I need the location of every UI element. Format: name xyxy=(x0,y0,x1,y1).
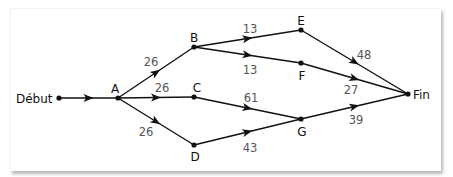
node-label-G: G xyxy=(297,125,306,139)
node-fin xyxy=(405,91,410,96)
network-diagram: 26262613136143482739DébutABCDEFGFin xyxy=(0,0,453,177)
arrow-icon xyxy=(349,101,361,111)
node-D xyxy=(191,142,196,147)
edge-weight-B-E: 13 xyxy=(243,22,258,36)
labels-layer: 26262613136143482739DébutABCDEFGFin xyxy=(16,14,430,164)
node-E xyxy=(298,27,303,32)
node-label-fin: Fin xyxy=(413,88,430,102)
edge-weight-D-G: 43 xyxy=(243,141,258,155)
node-label-E: E xyxy=(297,14,305,28)
edge-weight-G-fin: 39 xyxy=(349,113,364,127)
node-debut xyxy=(56,95,61,100)
node-label-B: B xyxy=(190,31,198,45)
edge-weight-B-F: 13 xyxy=(243,63,258,77)
node-A xyxy=(115,95,120,100)
edge-weight-A-C: 26 xyxy=(155,81,170,95)
arrows-layer xyxy=(84,34,361,137)
node-label-C: C xyxy=(193,81,201,95)
node-label-F: F xyxy=(299,69,306,83)
edge-weight-A-D: 26 xyxy=(139,125,154,139)
node-label-A: A xyxy=(111,82,120,96)
node-label-debut: Début xyxy=(16,92,53,106)
node-B xyxy=(191,44,196,49)
edge-weight-C-G: 61 xyxy=(244,91,259,105)
node-G xyxy=(298,116,303,121)
node-F xyxy=(298,60,303,65)
arrow-icon xyxy=(242,127,254,137)
edge-weight-F-fin: 27 xyxy=(344,83,359,97)
node-C xyxy=(191,94,196,99)
edge-weight-A-B: 26 xyxy=(144,55,159,69)
edge-weight-E-fin: 48 xyxy=(357,48,372,62)
node-label-D: D xyxy=(190,150,199,164)
